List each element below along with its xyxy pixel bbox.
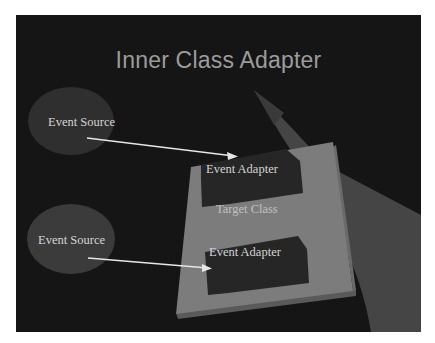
event-source-label-1: Event Source [48, 115, 115, 130]
slide-title: Inner Class Adapter [16, 47, 421, 74]
arrow-1 [87, 138, 234, 156]
target-class-label: Target Class [216, 202, 278, 217]
event-source-label-2: Event Source [38, 233, 105, 248]
event-adapter-label-2: Event Adapter [209, 245, 281, 260]
slide: Inner Class Adapter Event Source Event S… [16, 15, 421, 332]
event-adapter-label-1: Event Adapter [206, 162, 278, 177]
